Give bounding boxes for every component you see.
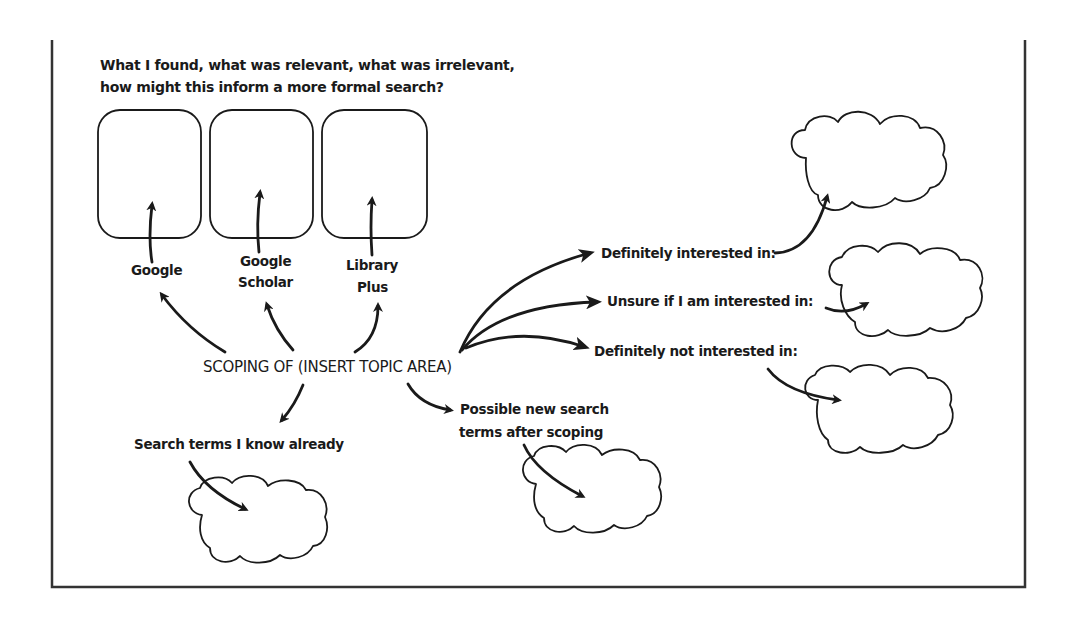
cloud-new-terms[interactable] <box>523 445 661 533</box>
source-label-google: Google <box>131 262 182 278</box>
cloud-definitely-interested[interactable] <box>792 112 947 210</box>
scoping-diagram: What I found, what was relevant, what wa… <box>0 0 1077 623</box>
label-definitely-interested: Definitely interested in: <box>601 245 776 261</box>
label-not-interested: Definitely not interested in: <box>594 343 797 359</box>
label-new-terms-2[interactable]: terms after scoping <box>459 424 603 440</box>
header-line-1: What I found, what was relevant, what wa… <box>100 57 515 73</box>
library-plus-results-box[interactable] <box>322 110 427 238</box>
google-scholar-results-box[interactable] <box>210 110 313 238</box>
center-to-scholar-arrow <box>267 305 293 350</box>
cloud-not-interested[interactable] <box>805 365 953 453</box>
arrow-into-cloud-definitely <box>775 197 827 253</box>
cloud-unsure[interactable] <box>829 243 982 336</box>
header-line-2: how might this inform a more formal sear… <box>100 79 444 95</box>
label-new-terms-1[interactable]: Possible new search <box>460 401 609 417</box>
source-label-library-plus-1: Library <box>346 257 399 273</box>
arrow-to-not-interested <box>466 336 585 348</box>
cloud-known-terms[interactable] <box>189 476 327 563</box>
center-to-library-arrow <box>355 306 378 352</box>
arrow-to-new-terms <box>408 384 450 410</box>
label-unsure-interested: Unsure if I am interested in: <box>607 293 813 309</box>
source-label-library-plus-2: Plus <box>357 279 388 295</box>
label-known-search-terms[interactable]: Search terms I know already <box>134 436 344 452</box>
center-to-google-arrow <box>162 295 225 352</box>
library-to-box-arrow <box>371 200 372 255</box>
central-topic[interactable]: SCOPING OF (INSERT TOPIC AREA) <box>203 358 452 376</box>
source-label-google-scholar-1: Google <box>240 253 291 269</box>
source-label-google-scholar-2: Scholar <box>238 274 294 290</box>
arrow-to-known-terms <box>282 385 303 420</box>
